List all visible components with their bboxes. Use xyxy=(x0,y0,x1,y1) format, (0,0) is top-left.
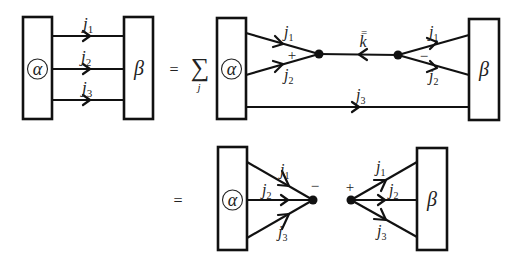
label-k-bar: k xyxy=(359,33,367,50)
label-j3: j3 xyxy=(276,223,287,243)
minus-sign: − xyxy=(420,48,428,64)
label-j1: j1 xyxy=(427,23,438,43)
label-j3: j3 xyxy=(354,86,365,106)
equals-sign: = xyxy=(169,61,178,78)
label-j2: j2 xyxy=(427,67,438,87)
beta-label: β xyxy=(478,58,489,81)
label-j3: j3 xyxy=(80,78,93,99)
minus-sign: − xyxy=(311,178,319,194)
alpha-label: α xyxy=(227,59,237,79)
beta-label: β xyxy=(426,188,437,211)
plus-sign: + xyxy=(288,47,296,63)
label-j2: j2 xyxy=(79,47,91,68)
label-j2: j2 xyxy=(260,181,271,201)
rhs-split-panel: α − j1 j2 j3 + j1 j2 j3 β xyxy=(218,147,447,250)
label-j1: j1 xyxy=(282,23,293,43)
label-j1: j1 xyxy=(278,161,289,181)
rhs-sum-panel: α β + j1 j2 = k − j1 j2 j3 xyxy=(217,18,499,120)
alpha-label: α xyxy=(33,59,43,79)
label-j1: j1 xyxy=(81,14,93,35)
beta-label: β xyxy=(133,57,144,80)
label-j3: j3 xyxy=(375,222,386,242)
label-j2: j2 xyxy=(387,181,398,201)
sum-symbol: ∑ xyxy=(191,53,210,82)
sum-index: j xyxy=(195,81,200,93)
label-j1: j1 xyxy=(374,158,385,178)
plus-sign: + xyxy=(346,179,354,195)
lhs-panel: α β j1 j2 j3 xyxy=(23,14,153,119)
diagram-canvas: α β j1 j2 j3 = ∑ j α β + j1 j2 xyxy=(0,0,515,260)
label-j2: j2 xyxy=(282,66,293,86)
alpha-label: α xyxy=(228,190,238,210)
equals-sign: = xyxy=(173,192,182,209)
vertex-node xyxy=(309,196,318,205)
